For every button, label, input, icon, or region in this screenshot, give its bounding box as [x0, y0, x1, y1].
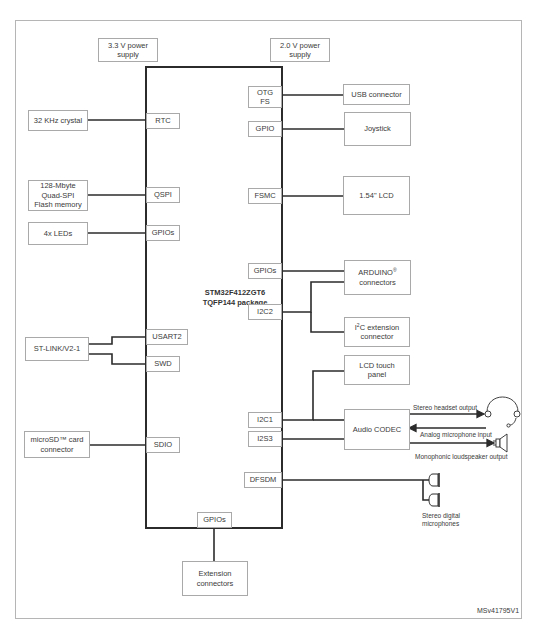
- label-headset-output: Stereo headset output: [413, 404, 477, 412]
- label-speaker-output: Monophonic loudspeaker output: [415, 453, 508, 461]
- port-i2s3: I2S3: [248, 431, 282, 447]
- arduino-title: ARDUINO®: [358, 268, 396, 278]
- power-supply-2v0: 2.0 V power supply: [270, 38, 330, 62]
- port-gpio: GPIO: [248, 121, 282, 137]
- leds: 4x LEDs: [28, 222, 88, 245]
- audio-codec: Audio CODEC: [344, 409, 410, 450]
- st-link: ST-LINK/V2-1: [25, 337, 89, 361]
- microsd-connector: microSD™ card connector: [24, 431, 90, 458]
- crystal-32khz: 32 KHz crystal: [28, 110, 88, 131]
- label-digital-mics: Stereo digital microphones: [422, 512, 460, 528]
- i2c-ext-title: I2C extension: [355, 323, 399, 333]
- port-fsmc: FSMC: [248, 188, 282, 204]
- lcd-display: 1.54" LCD: [343, 176, 410, 215]
- extension-connectors: Extension connectors: [182, 561, 248, 596]
- arduino-subtitle: connectors: [359, 278, 396, 288]
- port-qspi: QSPI: [146, 187, 180, 203]
- headphones-icon: [485, 397, 520, 427]
- port-gpios-bottom: GPIOs: [197, 512, 232, 528]
- usb-connector: USB connector: [343, 84, 410, 105]
- port-gpios-right: GPIOs: [248, 263, 282, 279]
- qspi-flash-memory: 128-Mbyte Quad-SPI Flash memory: [28, 180, 88, 211]
- port-i2c1: I2C1: [248, 412, 282, 428]
- arduino-connectors: ARDUINO® connectors: [344, 260, 411, 295]
- microphone-icon: [429, 473, 439, 507]
- port-sdio: SDIO: [146, 437, 180, 453]
- lcd-touch-panel: LCD touch panel: [344, 355, 410, 385]
- port-rtc: RTC: [146, 113, 180, 129]
- power-supply-3v3: 3.3 V power supply: [98, 38, 158, 62]
- port-usart2: USART2: [146, 329, 188, 345]
- port-swd: SWD: [146, 356, 180, 372]
- mcu-name: STM32F412ZGT6: [180, 288, 290, 298]
- port-gpios-left: GPIOs: [146, 225, 180, 241]
- figure-id: MSv41795V1: [477, 607, 519, 615]
- joystick: Joystick: [344, 112, 411, 146]
- port-otg-fs: OTG FS: [248, 86, 282, 108]
- i2c-extension-connector: I2C extension connector: [344, 317, 410, 347]
- label-mic-input: Analog microphone input: [420, 431, 492, 439]
- i2c-ext-subtitle: connector: [361, 332, 394, 342]
- port-i2c2: I2C2: [248, 304, 282, 320]
- port-dfsdm: DFSDM: [244, 472, 282, 488]
